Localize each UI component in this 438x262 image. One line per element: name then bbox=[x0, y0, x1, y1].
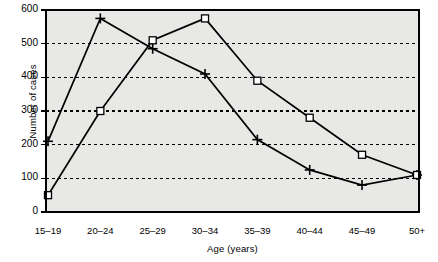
plot-area-svg bbox=[0, 0, 438, 262]
chart-figure: Number of cases Age (years) 0 100 200 30… bbox=[0, 0, 438, 262]
